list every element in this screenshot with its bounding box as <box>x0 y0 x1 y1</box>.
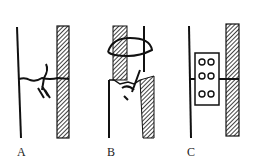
panel-b-label: B <box>107 145 115 160</box>
panel-a-right-pole-hatched <box>57 26 69 138</box>
panel-a-drawing <box>17 26 69 138</box>
bolt-icon <box>208 59 214 65</box>
panel-a-label: A <box>17 145 26 160</box>
bolt-icon <box>199 59 205 65</box>
panel-c-label: C <box>187 145 195 160</box>
bolt-icon <box>208 91 214 97</box>
bolt-icon <box>199 73 205 79</box>
panel-c-left-pole <box>189 26 191 138</box>
bolt-icon <box>208 73 214 79</box>
panel-b-bottom-pole-hatched <box>140 76 154 138</box>
panel-c-drawing <box>189 24 239 138</box>
figure-canvas <box>0 0 256 162</box>
panel-a-left-pole <box>17 27 21 138</box>
panel-a-wire-twist <box>38 64 50 98</box>
panel-b-top-pole-hatched <box>113 26 127 80</box>
panel-b-drawing <box>108 26 154 138</box>
bolt-icon <box>199 91 205 97</box>
